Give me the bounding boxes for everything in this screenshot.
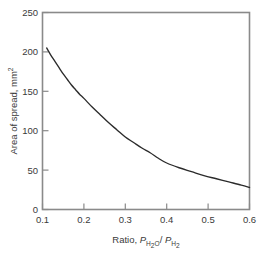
y-tick-label-100: 100 bbox=[22, 125, 38, 136]
y-axis-title: Area of spread, mm2 bbox=[7, 67, 19, 154]
x-tick-label-0.6: 0.6 bbox=[243, 214, 256, 225]
y-tick-label-50: 50 bbox=[27, 165, 38, 176]
y-tick-label-250: 250 bbox=[22, 7, 38, 18]
x-axis-title-p2-sub-2: 2 bbox=[176, 242, 180, 249]
y-tick-label-150: 150 bbox=[22, 86, 38, 97]
chart-figure: 0 50 100 150 200 250 0.1 0.2 0.3 0.4 0.5… bbox=[0, 0, 268, 259]
y-axis-title-main: Area of spread, mm bbox=[8, 71, 19, 155]
svg-text:Area of spread, mm2: Area of spread, mm2 bbox=[7, 67, 19, 154]
y-tick-label-200: 200 bbox=[22, 46, 38, 57]
x-axis-title-prefix: Ratio, bbox=[112, 234, 139, 245]
x-tick-label-0.1: 0.1 bbox=[36, 214, 49, 225]
x-axis-title: Ratio, PH2O/ PH2 bbox=[112, 234, 180, 249]
y-axis-title-exponent: 2 bbox=[7, 67, 14, 71]
x-tick-label-0.5: 0.5 bbox=[201, 214, 214, 225]
x-tick-label-0.2: 0.2 bbox=[77, 214, 90, 225]
chart-svg: 0 50 100 150 200 250 0.1 0.2 0.3 0.4 0.5… bbox=[0, 0, 268, 259]
x-tick-label-0.3: 0.3 bbox=[119, 214, 132, 225]
svg-text:Ratio, PH2O/ PH2: Ratio, PH2O/ PH2 bbox=[112, 234, 180, 249]
x-tick-label-0.4: 0.4 bbox=[160, 214, 173, 225]
